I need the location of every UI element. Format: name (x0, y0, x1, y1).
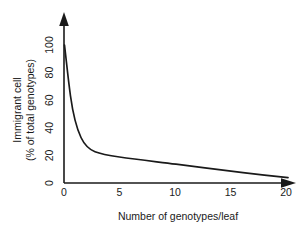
x-tick-label-15: 15 (225, 186, 237, 198)
x-axis-title: Number of genotypes/leaf (118, 210, 238, 222)
y-tick-label-100: 100 (43, 36, 55, 54)
y-tick-label-80: 80 (43, 67, 55, 79)
y-tick-label-0: 0 (43, 180, 55, 186)
y-axis-arrow-icon (59, 12, 69, 26)
chart-page: 0 5 10 15 20 0 20 40 60 80 100 Immigrant… (0, 0, 303, 239)
immigrant-cell-decay-chart: 0 5 10 15 20 0 20 40 60 80 100 Immigrant… (0, 0, 303, 239)
y-tick-label-60: 60 (43, 94, 55, 106)
y-axis-title-line2: (% of total genotypes) (24, 59, 36, 161)
decay-curve (65, 45, 289, 178)
x-tick-label-10: 10 (169, 186, 181, 198)
y-axis-title-line1: Immigrant cell (11, 77, 23, 142)
x-tick-label-5: 5 (117, 186, 123, 198)
y-tick-label-40: 40 (43, 122, 55, 134)
x-tick-label-0: 0 (61, 186, 67, 198)
x-tick-label-20: 20 (280, 186, 292, 198)
y-tick-label-20: 20 (43, 149, 55, 161)
